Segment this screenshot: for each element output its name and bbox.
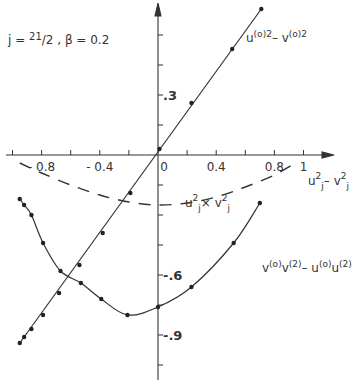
data-point <box>231 241 235 245</box>
data-point <box>259 7 263 11</box>
data-point <box>156 305 160 309</box>
data-point <box>29 213 33 217</box>
data-point <box>101 231 105 235</box>
series-label-u2-minus-v2: u(o)2– v(o)2 <box>246 29 307 45</box>
data-point <box>41 241 45 245</box>
data-point <box>58 269 62 273</box>
data-point <box>258 201 262 205</box>
data-point <box>18 341 22 345</box>
x-tick-label: 1 <box>300 160 308 174</box>
y-tick-label: .3 <box>163 88 177 103</box>
data-point <box>99 297 103 301</box>
series-1 <box>18 7 264 345</box>
data-point <box>29 327 33 331</box>
data-point <box>41 313 45 317</box>
data-point <box>22 335 26 339</box>
data-point <box>18 197 22 201</box>
series-label-v0v2-minus-u0u2: v(o)v(2)– u(o)u(2) <box>262 259 352 275</box>
series-line <box>20 199 260 315</box>
series-line <box>20 9 262 343</box>
data-point <box>230 47 234 51</box>
series-label-u2-times-v2: u2j× v2j <box>185 193 230 213</box>
series-line <box>20 163 292 205</box>
tick-labels: - 0.8- 0.400.40.81.3-.6-.9 <box>28 88 307 343</box>
data-point <box>79 281 83 285</box>
data-point <box>157 147 161 151</box>
x-tick-label: 0.4 <box>207 160 226 174</box>
data-point <box>189 101 193 105</box>
x-tick-label: - 0.4 <box>86 160 113 174</box>
y-axis-arrow-icon <box>155 3 161 16</box>
x-tick-label: 0 <box>160 160 168 174</box>
parameter-annotation: j = 21/2 , β = 0.2 <box>7 31 109 47</box>
x-tick-label: - 0.8 <box>28 160 55 174</box>
data-point <box>189 285 193 289</box>
annotations: j = 21/2 , β = 0.2u(o)2– v(o)2u2j– v2ju2… <box>7 29 352 275</box>
data-point <box>77 263 81 267</box>
data-point <box>128 191 132 195</box>
x-axis-label: u2j– v2j <box>308 171 349 191</box>
data-point <box>57 291 61 295</box>
y-tick-label: -.6 <box>163 268 182 283</box>
data-point <box>22 203 26 207</box>
data-point <box>125 313 129 317</box>
x-axis-arrow-icon <box>322 152 334 158</box>
axes <box>6 3 334 380</box>
chart: - 0.8- 0.400.40.81.3-.6-.9 j = 21/2 , β … <box>0 0 364 388</box>
series-layer <box>18 7 292 345</box>
series-3 <box>20 163 292 205</box>
y-tick-label: -.9 <box>163 328 182 343</box>
series-2 <box>18 197 262 317</box>
